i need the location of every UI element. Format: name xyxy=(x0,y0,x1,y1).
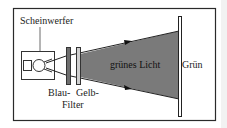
beam-label: grünes Licht xyxy=(110,60,160,70)
blue-filter xyxy=(67,48,71,85)
spotlight-icon xyxy=(22,52,55,80)
screen-label: Grün xyxy=(182,60,203,70)
filter-label: Filter xyxy=(62,100,84,110)
yellow-filter-label: Gelb- xyxy=(76,88,99,98)
page-edge xyxy=(221,0,227,128)
lamp-label: Scheinwerfer xyxy=(20,16,73,26)
blue-filter-label: Blau- xyxy=(48,88,70,98)
yellow-filter xyxy=(77,48,81,85)
light-filter-diagram: Scheinwerfer Blau- Gelb- Filter grünes L… xyxy=(0,0,227,128)
